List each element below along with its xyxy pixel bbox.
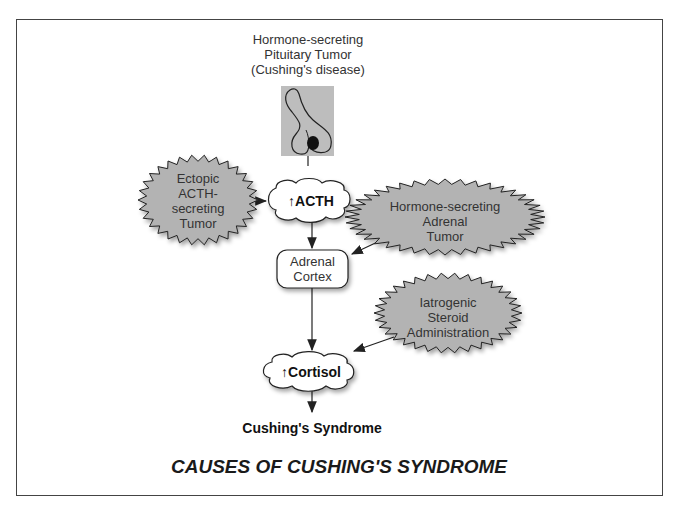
label-line: Tumor [150, 216, 246, 231]
iatrogenic-label: Iatrogenic Steroid Administration [388, 295, 508, 340]
label-line: Adrenal [380, 214, 510, 229]
label-line: (Cushing's disease) [228, 62, 388, 77]
label-line: Administration [388, 325, 508, 340]
label-line: Hormone-secreting [228, 32, 388, 47]
label-line: Ectopic [150, 171, 246, 186]
label-line: ACTH- [150, 186, 246, 201]
ectopic-tumor-label: Ectopic ACTH- secreting Tumor [150, 171, 246, 231]
label-line: Steroid [388, 310, 508, 325]
label-line: Tumor [380, 229, 510, 244]
diagram-title: CAUSES OF CUSHING'S SYNDROME [0, 456, 678, 478]
cushings-syndrome-label: Cushing's Syndrome [222, 421, 402, 436]
label-line: secreting [150, 201, 246, 216]
pituitary-tumor-label: Hormone-secreting Pituitary Tumor (Cushi… [228, 32, 388, 77]
label-line: Cortex [277, 269, 348, 284]
pituitary-gland-icon [281, 86, 334, 156]
label-line: Hormone-secreting [380, 199, 510, 214]
acth-label: ↑ACTH [276, 194, 346, 209]
adrenal-cortex-label: Adrenal Cortex [277, 254, 348, 284]
label-line: Adrenal [277, 254, 348, 269]
adrenal-tumor-label: Hormone-secreting Adrenal Tumor [380, 199, 510, 244]
label-line: Iatrogenic [388, 295, 508, 310]
label-line: Pituitary Tumor [228, 47, 388, 62]
cortisol-label: ↑Cortisol [268, 365, 354, 380]
